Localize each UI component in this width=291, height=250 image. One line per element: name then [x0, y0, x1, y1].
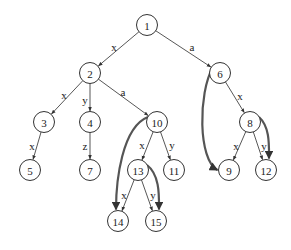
tree-diagram: xaxyaxxzxyxyxy 126341085713119121415: [0, 0, 291, 250]
node-5: 5: [20, 160, 41, 181]
edge-label-8-9: x: [233, 140, 239, 152]
node-12: 12: [256, 160, 277, 181]
node-label: 1: [144, 20, 150, 32]
edge-label-4-7: z: [83, 140, 88, 152]
node-13: 13: [128, 160, 149, 181]
node-label: 11: [169, 165, 180, 177]
node-3: 3: [34, 112, 55, 133]
node-label: 15: [151, 216, 163, 228]
edge-1-6: [156, 31, 211, 67]
edge-label-13-15: y: [150, 189, 156, 201]
node-label: 10: [152, 117, 164, 129]
edge-label-1-6: a: [190, 41, 195, 53]
node-15: 15: [146, 211, 167, 232]
node-9: 9: [219, 160, 240, 181]
node-label: 8: [247, 117, 253, 129]
node-label: 9: [226, 165, 232, 177]
node-label: 7: [87, 165, 93, 177]
node-label: 13: [133, 165, 145, 177]
node-label: 3: [41, 117, 47, 129]
node-10: 10: [147, 112, 168, 133]
node-label: 4: [87, 117, 93, 129]
node-label: 5: [27, 165, 33, 177]
edge-label-1-2: x: [111, 41, 117, 53]
edge-label-2-10: a: [121, 86, 126, 98]
node-label: 2: [87, 68, 93, 80]
node-4: 4: [80, 112, 101, 133]
node-8: 8: [240, 112, 261, 133]
node-7: 7: [80, 160, 101, 181]
tree-diagram-svg: xaxyaxxzxyxyxy 126341085713119121415: [0, 0, 291, 250]
edge-label-2-4: y: [82, 94, 88, 106]
edge-1-2: [98, 32, 139, 66]
node-14: 14: [108, 211, 129, 232]
edge-2-3: [52, 81, 83, 114]
node-label: 6: [217, 68, 223, 80]
edge-label-6-8: x: [237, 90, 243, 102]
edge-label-2-3: x: [61, 89, 67, 101]
edge-label-13-14: x: [121, 189, 127, 201]
edge-label-8-12: y: [261, 140, 267, 152]
edge-label-10-11: y: [169, 139, 175, 151]
node-1: 1: [137, 15, 158, 36]
node-11: 11: [164, 160, 185, 181]
node-label: 12: [261, 165, 272, 177]
edge-label-3-5: x: [29, 140, 35, 152]
node-6: 6: [210, 63, 231, 84]
node-label: 14: [113, 216, 125, 228]
node-2: 2: [80, 63, 101, 84]
edge-label-10-13: x: [139, 139, 145, 151]
